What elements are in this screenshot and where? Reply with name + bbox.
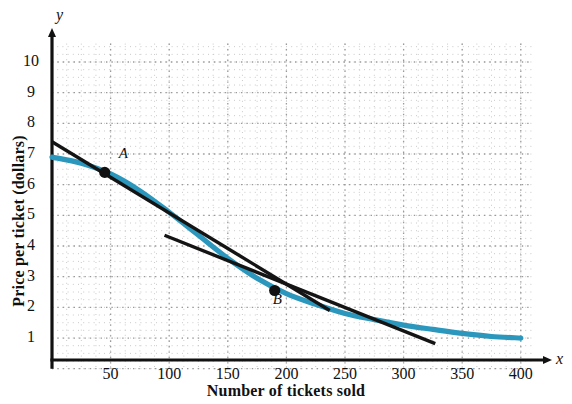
x-axis-title: Number of tickets sold — [0, 382, 572, 400]
x-tick-label-250: 250 — [322, 365, 368, 383]
y-tick-label-8: 8 — [16, 113, 46, 131]
point-marker-a — [99, 167, 110, 178]
x-tick-label-350: 350 — [439, 365, 485, 383]
data-series-layer — [52, 142, 521, 344]
x-axis-variable-label: x — [556, 350, 563, 368]
x-tick-label-100: 100 — [146, 365, 192, 383]
tangent-line-at-B — [165, 235, 436, 343]
x-tick-label-150: 150 — [205, 365, 251, 383]
grid-major-dots — [52, 44, 533, 369]
y-tick-label-7: 7 — [16, 144, 46, 162]
axes — [50, 36, 544, 369]
point-label-b: B — [273, 291, 282, 308]
point-label-a: A — [119, 145, 128, 162]
x-tick-label-300: 300 — [381, 365, 427, 383]
y-tick-label-1: 1 — [16, 328, 46, 346]
x-tick-label-200: 200 — [263, 365, 309, 383]
x-tick-label-400: 400 — [498, 365, 544, 383]
y-tick-label-9: 9 — [16, 83, 46, 101]
y-tick-label-4: 4 — [16, 236, 46, 254]
x-tick-label-50: 50 — [88, 365, 134, 383]
y-axis-variable-label: y — [56, 6, 63, 24]
y-tick-label-3: 3 — [16, 267, 46, 285]
y-tick-label-2: 2 — [16, 297, 46, 315]
grid-minor-dots — [52, 44, 533, 369]
y-tick-label-10: 10 — [16, 52, 46, 70]
y-tick-label-5: 5 — [16, 205, 46, 223]
graph-figure: y x Number of tickets sold Price per tic… — [0, 0, 572, 404]
y-tick-label-6: 6 — [16, 175, 46, 193]
coordinate-plane — [0, 0, 572, 404]
